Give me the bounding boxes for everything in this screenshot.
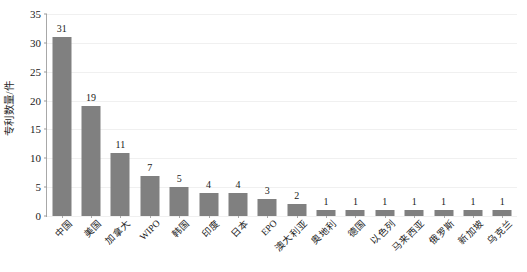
bar-group: 4 — [223, 14, 252, 216]
bar-value-label: 2 — [294, 191, 299, 201]
bar-value-label: 4 — [206, 180, 211, 190]
bar — [111, 153, 130, 216]
bar-value-label: 7 — [147, 163, 152, 173]
bar-group: 1 — [370, 14, 399, 216]
y-axis-tick-label: 35 — [30, 9, 41, 20]
bar — [199, 193, 218, 216]
x-axis-tick-label: 乌克兰 — [486, 218, 515, 247]
bar-value-label: 1 — [470, 197, 475, 207]
x-axis-tick-label: 美国 — [82, 218, 104, 240]
bar-value-label: 5 — [177, 174, 182, 184]
x-axis-tick-label: WIPO — [138, 218, 163, 243]
bar-value-label: 19 — [86, 93, 96, 103]
y-axis-tick-label: 15 — [30, 124, 41, 135]
bar-value-label: 4 — [235, 180, 240, 190]
bar-group: 1 — [458, 14, 487, 216]
x-axis-tick-label: EPO — [260, 218, 280, 238]
x-axis-tick-mark — [62, 216, 63, 218]
bar-chart: 专利数量/件 05101520253035 311911754432111111… — [0, 0, 527, 272]
bar-value-label: 1 — [441, 197, 446, 207]
bar — [82, 106, 101, 216]
bar — [52, 37, 71, 216]
x-axis-tick-mark — [502, 216, 503, 218]
bar-value-label: 11 — [116, 140, 126, 150]
plot-area: 05101520253035 3119117544321111111 — [47, 14, 517, 216]
y-axis-title: 专利数量/件 — [0, 0, 18, 216]
bar-group: 1 — [400, 14, 429, 216]
x-axis-tick-mark — [238, 216, 239, 218]
bar-group: 11 — [106, 14, 135, 216]
x-axis-tick-mark — [91, 216, 92, 218]
bar-group: 19 — [76, 14, 105, 216]
bar — [287, 204, 306, 216]
bars: 3119117544321111111 — [47, 14, 517, 216]
x-axis-tick-label: 中国 — [53, 218, 75, 240]
x-axis-ticks: 中国美国加拿大WIPO韩国印度日本EPO澳大利亚奥地利德国以色列马来西亚俄罗斯新… — [47, 218, 517, 272]
bar-group: 1 — [429, 14, 458, 216]
x-axis-tick-label: 俄罗斯 — [427, 218, 456, 247]
x-axis-tick-label: 日本 — [229, 218, 251, 240]
bar-value-label: 3 — [265, 186, 270, 196]
bar-group: 7 — [135, 14, 164, 216]
x-axis-tick-label: 加拿大 — [104, 218, 133, 247]
x-axis-tick-mark — [179, 216, 180, 218]
x-axis-tick-mark — [473, 216, 474, 218]
bar-group: 1 — [488, 14, 517, 216]
x-axis-tick-label: 韩国 — [170, 218, 192, 240]
x-axis-tick-label: 澳大利亚 — [273, 218, 309, 254]
bar-value-label: 1 — [412, 197, 417, 207]
bar-value-label: 1 — [324, 197, 329, 207]
bar — [258, 199, 277, 216]
bar-value-label: 1 — [500, 197, 505, 207]
bar — [140, 176, 159, 216]
bar-group: 31 — [47, 14, 76, 216]
y-axis-tick-label: 20 — [30, 95, 41, 106]
bar — [228, 193, 247, 216]
bar — [170, 187, 189, 216]
x-axis-tick-mark — [209, 216, 210, 218]
y-axis-tick-label: 5 — [36, 182, 42, 193]
x-axis-tick-label: 德国 — [346, 218, 368, 240]
x-axis-tick-mark — [297, 216, 298, 218]
bar-group: 1 — [311, 14, 340, 216]
x-axis-tick-mark — [120, 216, 121, 218]
bar-group: 2 — [282, 14, 311, 216]
bar-group: 1 — [341, 14, 370, 216]
bar-value-label: 31 — [57, 24, 67, 34]
x-axis-tick-mark — [385, 216, 386, 218]
bar-group: 5 — [165, 14, 194, 216]
x-axis-tick-mark — [150, 216, 151, 218]
x-axis-tick-mark — [414, 216, 415, 218]
y-axis-tick-label: 10 — [30, 153, 41, 164]
bar-value-label: 1 — [382, 197, 387, 207]
x-axis-tick-label: 奥地利 — [310, 218, 339, 247]
x-axis-tick-mark — [355, 216, 356, 218]
gridline — [47, 216, 517, 217]
y-axis-title-text: 专利数量/件 — [2, 80, 17, 136]
x-axis-tick-label: 新加坡 — [457, 218, 486, 247]
y-axis-tick-label: 25 — [30, 66, 41, 77]
y-axis-tick-label: 30 — [30, 37, 41, 48]
x-axis-tick-mark — [326, 216, 327, 218]
bar-group: 3 — [253, 14, 282, 216]
x-axis-tick-mark — [267, 216, 268, 218]
x-axis-tick-label: 印度 — [199, 218, 221, 240]
bar-value-label: 1 — [353, 197, 358, 207]
x-axis-tick-mark — [444, 216, 445, 218]
bar-group: 4 — [194, 14, 223, 216]
y-axis-tick-label: 0 — [36, 211, 42, 222]
